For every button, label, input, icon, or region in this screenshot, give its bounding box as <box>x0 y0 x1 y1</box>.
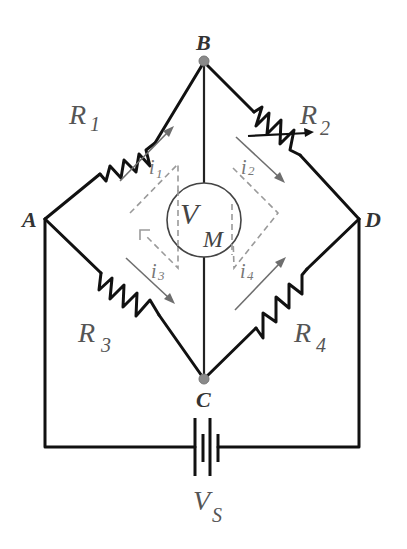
current-subscript-i4: 4 <box>247 268 254 283</box>
current-label-i3: i <box>151 260 157 282</box>
wire-r1-b <box>155 62 204 143</box>
current-subscript-i3: 3 <box>157 268 165 283</box>
resistor-label-r2: R <box>299 99 317 130</box>
node-label-c: C <box>196 387 211 412</box>
battery-source <box>195 418 218 476</box>
current-subscript-i1: 1 <box>156 166 163 181</box>
node-b-dot <box>199 56 209 66</box>
resistor-label-r4: R <box>293 317 311 348</box>
voltmeter: V M <box>167 183 241 257</box>
wire-r4-d <box>307 219 359 269</box>
resistor-subscript-r4: 4 <box>316 334 326 356</box>
node-label-d: D <box>364 207 381 232</box>
current-label-i2: i <box>241 156 247 178</box>
wire-r2-d <box>300 155 359 219</box>
current-label-i1: i <box>149 156 155 178</box>
current-subscript-i2: 2 <box>248 163 255 178</box>
wire-a-r3 <box>45 219 101 273</box>
wire-b-r2 <box>204 62 254 112</box>
wire-c-r4 <box>204 328 256 379</box>
wire-r3-c <box>159 315 204 379</box>
wire-d-source <box>218 219 359 447</box>
resistor-label-r1: R <box>68 99 86 130</box>
resistor-subscript-r3: 3 <box>100 334 111 356</box>
resistor-subscript-r1: 1 <box>90 113 100 135</box>
node-label-b: B <box>195 30 211 55</box>
resistor-label-r3: R <box>77 317 95 348</box>
wheatstone-bridge-diagram: V M B A D C R 1 R 2 R 3 R 4 i <box>0 0 407 549</box>
current-label-i4: i <box>240 260 246 282</box>
source-label: V <box>193 485 213 516</box>
wire-a-r1 <box>45 174 100 219</box>
source-subscript: S <box>212 504 222 526</box>
resistor-subscript-r2: 2 <box>320 117 330 139</box>
node-label-a: A <box>20 207 37 232</box>
resistor-r2-zigzag <box>254 107 300 155</box>
resistor-r1-zigzag <box>100 143 155 181</box>
voltmeter-subscript: M <box>202 226 225 252</box>
node-c-dot <box>199 374 209 384</box>
